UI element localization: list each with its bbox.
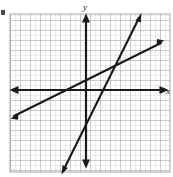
coordinate-plane-svg: x y (0, 0, 173, 177)
graph-figure: x y (0, 0, 173, 177)
grid-area (10, 14, 170, 172)
y-axis-label: y (82, 2, 87, 12)
grid-rect (10, 14, 170, 172)
scan-speck (1, 10, 5, 15)
x-axis-label: x (165, 86, 170, 96)
